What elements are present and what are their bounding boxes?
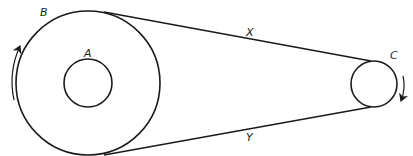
large-pulley-b bbox=[16, 11, 160, 155]
belt-segment-y bbox=[104, 107, 371, 155]
hub-a bbox=[64, 59, 112, 107]
label-a: A bbox=[83, 47, 92, 60]
label-b: B bbox=[40, 6, 48, 19]
label-x: X bbox=[245, 26, 254, 39]
label-c: C bbox=[390, 49, 398, 62]
belt-segment-x bbox=[104, 12, 371, 61]
small-pulley-c bbox=[351, 61, 397, 107]
rotation-arrow-c-icon bbox=[401, 76, 404, 101]
label-y: Y bbox=[246, 131, 254, 144]
belt-drive-diagram: B A C X Y bbox=[0, 0, 413, 156]
